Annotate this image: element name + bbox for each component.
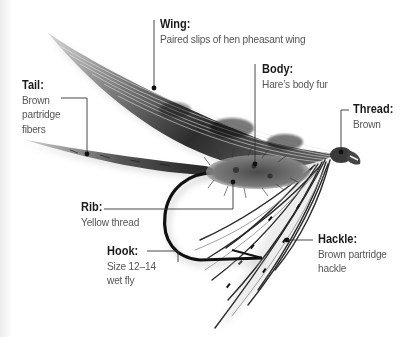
hook-label: Hook: Size 12–14 wet fly [107,244,156,288]
wing-label-title: Wing: [160,17,306,32]
tail-label-desc-2: partridge [22,107,60,122]
rib-label: Rib: Yellow thread [81,200,139,229]
hackle-label-desc-2: hackle [318,261,387,276]
hackle-label-desc-1: Brown partridge [318,247,387,262]
body-label-desc: Hare’s body fur [262,77,328,92]
wing-label-desc: Paired slips of hen pheasant wing [160,32,306,47]
fly-illustration [0,0,408,337]
rib-label-title: Rib: [81,200,139,215]
thread-leader-line [341,110,349,152]
tail-leader-line [61,98,87,154]
tail-label-desc-3: fibers [22,122,60,137]
hook-label-title: Hook: [107,244,156,259]
hook-label-desc-2: wet fly [107,273,156,288]
tail-label: Tail: Brown partridge fibers [22,78,60,136]
body-label-title: Body: [262,62,328,77]
hackle-label: Hackle: Brown partridge hackle [318,232,387,276]
hackle-label-title: Hackle: [318,232,387,247]
thread-label: Thread: Brown [353,102,393,131]
thread-label-title: Thread: [353,102,393,117]
tail-label-title: Tail: [22,78,60,93]
rib-label-desc: Yellow thread [81,215,139,230]
tail-label-desc-1: Brown [22,93,60,108]
wing-shape [48,33,338,172]
wing-label: Wing: Paired slips of hen pheasant wing [160,17,306,46]
fly-anatomy-diagram: Wing: Paired slips of hen pheasant wing … [0,0,408,337]
body-label: Body: Hare’s body fur [262,62,328,91]
head-shape [330,147,360,165]
hook-label-desc-1: Size 12–14 [107,259,156,274]
thread-label-desc: Brown [353,117,393,132]
